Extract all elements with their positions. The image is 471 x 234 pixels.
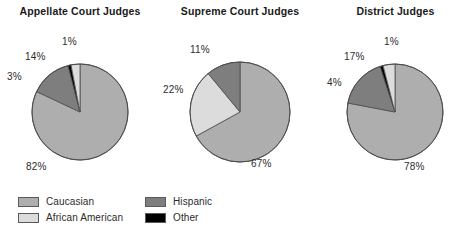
legend-swatch-icon [145, 213, 166, 223]
legend-row: Caucasian Hispanic [18, 194, 258, 209]
pie-svg [0, 0, 160, 185]
pie-chart: 1%17%4%78% [320, 0, 471, 185]
legend-label: Caucasian [46, 196, 94, 207]
pie-slice-percentage-label: 17% [344, 51, 365, 62]
pie-slice-percentage-label: 1% [62, 36, 77, 47]
legend-item-hispanic: Hispanic [145, 194, 212, 209]
pie-chart-figure: Appellate Court Judges 1%14%3%82% Suprem… [0, 0, 471, 234]
pie-slice-percentage-label: 11% [190, 44, 210, 55]
legend-swatch-icon [18, 213, 39, 223]
pie-slice-percentage-label: 78% [404, 161, 425, 172]
pie-slice-percentage-label: 22% [163, 84, 184, 95]
legend-label: Other [173, 212, 199, 223]
pie-slice-percentage-label: 3% [7, 71, 22, 82]
chart-panel-appellate-court-judges: Appellate Court Judges 1%14%3%82% [0, 0, 160, 185]
pie-slice-percentage-label: 1% [384, 36, 399, 47]
legend-label: Hispanic [173, 196, 212, 207]
pie-slice-percentage-label: 14% [25, 51, 46, 62]
chart-panel-supreme-court-judges: Supreme Court Judges 11%22%67% [160, 0, 320, 185]
pie-slice-percentage-label: 82% [26, 161, 47, 172]
legend-swatch-icon [145, 197, 166, 207]
legend-item-african-american: African American [18, 210, 123, 225]
pie-slice-percentage-label: 4% [327, 77, 342, 88]
legend-swatch-icon [18, 197, 39, 207]
pie-svg [320, 0, 471, 185]
pie-svg [160, 0, 320, 185]
legend-item-other: Other [145, 210, 199, 225]
legend-row: African American Other [18, 210, 258, 225]
pie-chart: 1%14%3%82% [0, 0, 160, 185]
legend-label: African American [46, 212, 123, 223]
legend: Caucasian Hispanic African American Othe… [18, 194, 258, 228]
chart-panel-district-judges: District Judges 1%17%4%78% [320, 0, 471, 185]
pie-chart: 11%22%67% [160, 0, 320, 185]
legend-item-caucasian: Caucasian [18, 194, 94, 209]
pie-slice-percentage-label: 67% [251, 158, 272, 169]
